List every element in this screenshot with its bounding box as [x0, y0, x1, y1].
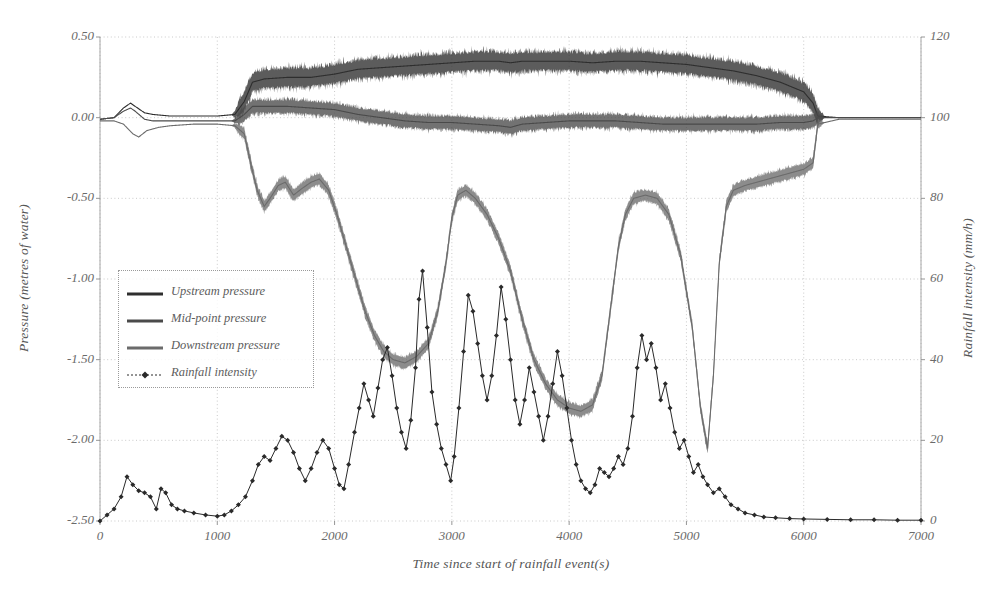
y-axis-right-tick: 120	[930, 28, 980, 44]
legend-label-mid-point-pressure: Mid-point pressure	[171, 311, 266, 326]
legend-swatch-rainfall-intensity	[126, 367, 164, 379]
y-axis-left-tick: -1.50	[20, 351, 94, 367]
legend-label-upstream-pressure: Upstream pressure	[171, 284, 265, 299]
x-axis-tick: 5000	[646, 528, 726, 544]
x-axis-tick: 0	[60, 528, 140, 544]
y-axis-right-tick: 0	[930, 512, 980, 528]
y-axis-right-tick: 40	[930, 351, 980, 367]
x-axis-tick: 7000	[881, 528, 961, 544]
y-axis-left-tick: 0.50	[20, 28, 94, 44]
x-axis-tick: 3000	[412, 528, 492, 544]
y-axis-right-tick: 60	[930, 270, 980, 286]
series-upstream-pressure	[100, 45, 921, 128]
x-axis-tick: 1000	[177, 528, 257, 544]
legend-item: Rainfall intensity	[119, 359, 313, 386]
legend-swatch-upstream-pressure	[126, 286, 164, 298]
legend-item: Upstream pressure	[119, 278, 313, 305]
legend-label-rainfall-intensity: Rainfall intensity	[171, 365, 257, 380]
legend-label-downstream-pressure: Downstream pressure	[171, 338, 280, 353]
chart-figure: Pressure (metres of water) Rainfall inte…	[0, 0, 997, 603]
chart-legend: Upstream pressure Mid-point pressure Dow…	[118, 270, 314, 388]
x-axis-title: Time since start of rainfall event(s)	[100, 556, 922, 572]
y-axis-left-tick: -2.50	[20, 512, 94, 528]
y-axis-right-tick: 20	[930, 431, 980, 447]
legend-item: Downstream pressure	[119, 332, 313, 359]
x-axis-tick: 6000	[764, 528, 844, 544]
x-axis-tick: 2000	[295, 528, 375, 544]
legend-item: Mid-point pressure	[119, 305, 313, 332]
y-axis-right-tick: 100	[930, 109, 980, 125]
y-axis-left-tick: -0.50	[20, 189, 94, 205]
y-axis-right-tick: 80	[930, 189, 980, 205]
y-axis-left-tick: -1.00	[20, 270, 94, 286]
legend-swatch-downstream-pressure	[126, 340, 164, 352]
y-axis-left-tick: -2.00	[20, 431, 94, 447]
x-axis-tick: 4000	[529, 528, 609, 544]
legend-swatch-mid-point-pressure	[126, 313, 164, 325]
y-axis-left-tick: 0.00	[20, 109, 94, 125]
